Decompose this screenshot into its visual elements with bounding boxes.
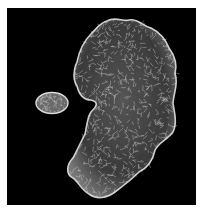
molecular-surface-image	[7, 8, 196, 205]
surface-render	[7, 8, 196, 205]
